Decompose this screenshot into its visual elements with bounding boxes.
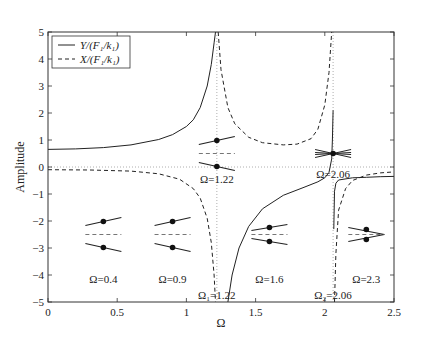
- y-axis-label: Amplitude: [13, 141, 27, 192]
- mode-shape: [348, 227, 384, 243]
- x-tick-label: 2.5: [387, 306, 401, 318]
- mode-shape: [85, 218, 121, 252]
- y-amplitude-curve: [334, 176, 394, 229]
- y-tick-label: −1: [32, 188, 44, 200]
- mode-shape-glyphs: [85, 137, 384, 252]
- omega-annotation: Ω=2.06: [316, 168, 350, 180]
- frequency-response-chart: Ω=0.4Ω=0.9Ω=1.22Ω=1.6Ω=2.06Ω=2.3Ω₁=1.22Ω…: [0, 0, 423, 340]
- x-tick-label: 2: [322, 306, 328, 318]
- x-amplitude-curve: [48, 170, 216, 302]
- legend-label-x: X/(F₁/k₁): [79, 53, 120, 66]
- x-tick-label: 1: [184, 306, 190, 318]
- mode-shape: [199, 137, 235, 171]
- y-tick-label: −2: [32, 215, 44, 227]
- y-tick-label: −3: [32, 242, 44, 254]
- y-tick-label: −5: [32, 296, 44, 308]
- x-axis-label: Ω: [217, 316, 226, 330]
- omega-annotation: Ω=0.4: [89, 273, 118, 285]
- y-tick-label: 5: [39, 26, 45, 38]
- mode-shape: [251, 225, 287, 245]
- legend-label-y: Y/(F₁/k₁): [80, 39, 119, 52]
- x-tick-label: 0.5: [110, 306, 124, 318]
- omega-annotation: Ω₁=1.22: [198, 289, 235, 301]
- mode-shape: [315, 150, 351, 158]
- y-tick-label: −4: [32, 269, 44, 281]
- omega-annotation: Ω₂=2.06: [314, 289, 352, 301]
- omega-annotation: Ω=2.3: [352, 273, 381, 285]
- omega-annotation: Ω=1.6: [255, 273, 284, 285]
- x-amplitude-curve: [218, 32, 332, 145]
- omega-annotation: Ω=1.22: [200, 173, 234, 185]
- y-tick-label: 4: [39, 53, 45, 65]
- legend: Y/(F₁/k₁) X/(F₁/k₁): [52, 36, 130, 68]
- y-tick-label: 1: [39, 134, 45, 146]
- mode-shape: [155, 218, 191, 252]
- y-tick-label: 3: [39, 80, 45, 92]
- omega-annotation: Ω=0.9: [158, 273, 187, 285]
- x-tick-label: 1.5: [249, 306, 263, 318]
- annotations: Ω=0.4Ω=0.9Ω=1.22Ω=1.6Ω=2.06Ω=2.3Ω₁=1.22Ω…: [89, 168, 381, 302]
- y-tick-label: 2: [39, 107, 45, 119]
- x-tick-label: 0: [45, 306, 51, 318]
- y-tick-label: 0: [39, 161, 45, 173]
